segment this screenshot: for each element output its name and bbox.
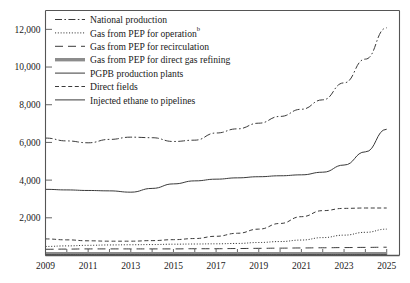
legend-label-6: Injected ethane to pipelines bbox=[90, 95, 195, 106]
x-tick-label: 2013 bbox=[121, 261, 140, 271]
y-tick-label: 2,000 bbox=[19, 213, 41, 223]
y-tick-label: 8,000 bbox=[19, 100, 41, 110]
legend-label-5: Direct fields bbox=[90, 81, 138, 92]
legend-label-3: Gas from PEP for direct gas refining bbox=[90, 54, 231, 65]
x-tick-label: 2009 bbox=[36, 261, 55, 271]
x-tick-label: 2015 bbox=[164, 261, 183, 271]
x-tick-label: 2023 bbox=[335, 261, 354, 271]
legend-label-0: National production bbox=[90, 14, 167, 25]
chart-container: 2,0004,0006,0008,00010,00012,000 2009201… bbox=[0, 0, 410, 283]
x-tick-label: 2021 bbox=[292, 261, 311, 271]
y-tick-label: 12,000 bbox=[14, 25, 40, 35]
y-tick-label: 10,000 bbox=[14, 62, 40, 72]
legend-label-2: Gas from PEP for recirculation bbox=[90, 41, 209, 52]
y-tick-label: 4,000 bbox=[19, 176, 41, 186]
legend-label-4: PGPB production plants bbox=[90, 68, 184, 79]
y-tick-label: 6,000 bbox=[19, 138, 41, 148]
x-tick-label: 2017 bbox=[207, 261, 226, 271]
x-tick-label: 2025 bbox=[377, 261, 396, 271]
x-tick-label: 2011 bbox=[79, 261, 98, 271]
x-tick-label: 2019 bbox=[249, 261, 268, 271]
line-chart: 2,0004,0006,0008,00010,00012,000 2009201… bbox=[0, 0, 410, 283]
